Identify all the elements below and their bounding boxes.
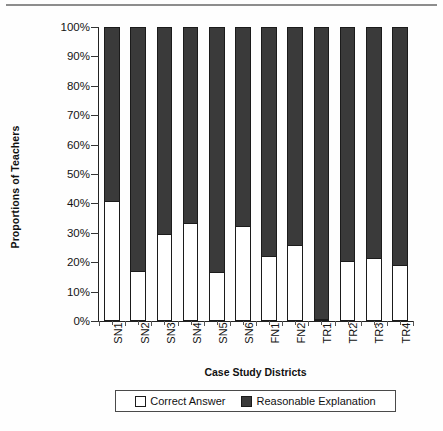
x-axis-tick (387, 321, 388, 326)
bar-segment-reasonable-explanation[interactable] (393, 28, 407, 266)
dark-square-swatch (241, 396, 252, 407)
x-axis-tick (125, 321, 126, 326)
stacked-bar[interactable] (235, 27, 251, 321)
legend-item-label: Reasonable Explanation (256, 395, 375, 407)
bar-slot (335, 27, 361, 321)
bar-slot (178, 27, 204, 321)
y-axis-tick (91, 262, 99, 263)
x-axis-tick (99, 321, 100, 326)
bar-slot (282, 27, 308, 321)
y-axis-tick (91, 115, 99, 116)
stacked-bar[interactable] (183, 27, 199, 321)
x-axis-tick-label-text: FN2 (295, 323, 307, 344)
y-axis-tick-label: 40% (67, 197, 90, 209)
stacked-bar[interactable] (209, 27, 225, 321)
x-axis-tick (204, 321, 205, 326)
y-axis-tick-label: 0% (73, 315, 90, 327)
x-axis-tick-label-text: TR1 (321, 323, 333, 344)
x-axis-tick (282, 321, 283, 326)
bar-series-container (99, 27, 413, 321)
x-axis-tick (308, 321, 309, 326)
bar-segment-reasonable-explanation[interactable] (288, 28, 302, 246)
bar-segment-reasonable-explanation[interactable] (367, 28, 381, 259)
x-axis-tick (256, 321, 257, 326)
x-axis-tick (335, 321, 336, 326)
x-axis-tick (361, 321, 362, 326)
stacked-bar[interactable] (261, 27, 277, 321)
bar-slot (125, 27, 151, 321)
x-axis-tick-label-text: SN2 (138, 322, 150, 343)
stacked-bar[interactable] (287, 27, 303, 321)
stacked-bar-chart-figure: Proportions of Teachers 0%10%20%30%40%50… (0, 0, 443, 431)
x-axis-tick-label-text: TR3 (374, 323, 386, 344)
y-axis-tick-label: 100% (61, 21, 90, 33)
y-axis-tick (91, 203, 99, 204)
x-axis-tick-label-text: TR4 (400, 323, 412, 344)
bar-segment-reasonable-explanation[interactable] (184, 28, 198, 224)
y-axis-tick-label: 10% (67, 286, 90, 298)
legend-item[interactable]: Correct Answer (135, 395, 225, 407)
bar-segment-reasonable-explanation[interactable] (315, 28, 329, 320)
y-axis-tick-label: 20% (67, 256, 90, 268)
stacked-bar[interactable] (104, 27, 120, 321)
bar-segment-reasonable-explanation[interactable] (105, 28, 119, 202)
bar-slot (308, 27, 334, 321)
y-axis-tick-label: 90% (67, 50, 90, 62)
chart-legend: Correct AnswerReasonable Explanation (115, 390, 396, 412)
y-axis-tick (91, 321, 99, 322)
bar-slot (151, 27, 177, 321)
x-axis-tick (413, 321, 414, 326)
legend-item-label: Correct Answer (150, 395, 225, 407)
x-axis-tick-label-text: TR2 (348, 323, 360, 344)
bar-slot (230, 27, 256, 321)
stacked-bar[interactable] (340, 27, 356, 321)
x-axis-tick-label-text: SN4 (191, 322, 203, 343)
bar-slot (99, 27, 125, 321)
bar-slot (361, 27, 387, 321)
stacked-bar[interactable] (392, 27, 408, 321)
bar-segment-reasonable-explanation[interactable] (236, 28, 250, 227)
bar-segment-reasonable-explanation[interactable] (262, 28, 276, 257)
y-axis-title: Proportions of Teachers (6, 98, 24, 276)
y-axis-tick (91, 292, 99, 293)
y-axis-tick (91, 86, 99, 87)
y-axis-tick (91, 174, 99, 175)
y-axis-tick (91, 233, 99, 234)
y-axis-tick-label: 30% (67, 227, 90, 239)
bar-segment-reasonable-explanation[interactable] (158, 28, 172, 235)
legend-item[interactable]: Reasonable Explanation (241, 395, 375, 407)
x-axis-tick (151, 321, 152, 326)
x-axis-tick-label-text: SN6 (243, 322, 255, 343)
plot-area: 0%10%20%30%40%50%60%70%80%90%100%SN1SN2S… (98, 27, 413, 322)
stacked-bar[interactable] (157, 27, 173, 321)
bar-slot (387, 27, 413, 321)
y-axis-tick-label: 60% (67, 139, 90, 151)
y-axis-tick-label: 80% (67, 80, 90, 92)
x-axis-tick-label-text: SN5 (217, 322, 229, 343)
y-axis-title-text: Proportions of Teachers (9, 126, 21, 249)
y-axis-tick (91, 56, 99, 57)
bar-slot (256, 27, 282, 321)
bar-segment-reasonable-explanation[interactable] (131, 28, 145, 272)
bar-segment-reasonable-explanation[interactable] (341, 28, 355, 262)
x-axis-tick-label-text: FN1 (269, 323, 281, 344)
bar-slot (204, 27, 230, 321)
y-axis-tick (91, 27, 99, 28)
y-axis-tick (91, 145, 99, 146)
stacked-bar[interactable] (314, 27, 330, 321)
x-axis-title: Case Study Districts (98, 366, 413, 378)
bar-segment-reasonable-explanation[interactable] (210, 28, 224, 273)
y-axis-tick-label: 70% (67, 109, 90, 121)
top-divider-rule (6, 4, 437, 6)
stacked-bar[interactable] (130, 27, 146, 321)
stacked-bar[interactable] (366, 27, 382, 321)
x-axis-tick (178, 321, 179, 326)
x-axis-tick-label-text: SN1 (112, 322, 124, 343)
x-axis-tick-label-text: SN3 (164, 322, 176, 343)
white-square-swatch (135, 396, 146, 407)
y-axis-tick-label: 50% (67, 168, 90, 180)
x-axis-tick (230, 321, 231, 326)
